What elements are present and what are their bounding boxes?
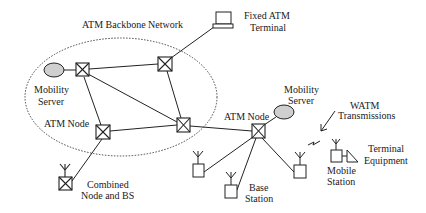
mobility-server-icon (274, 105, 294, 119)
mobility-server-icon (44, 63, 64, 77)
fixed-terminal-label: Fixed ATM (244, 10, 290, 21)
atm-switch-icon (252, 124, 265, 138)
combined-node-bs-icon (59, 164, 72, 190)
atm-switch-icon (76, 63, 89, 76)
combined-node-label: Combined (87, 179, 129, 190)
terminal-equipment-label: Equipment (364, 155, 408, 166)
atm-switch-icon (177, 118, 190, 132)
base-station-label: Station (245, 193, 273, 204)
fixed-terminal-label: Terminal (250, 22, 286, 33)
atm-switch-icon (96, 125, 110, 139)
mobile-station-icon (331, 139, 347, 162)
atm-switch-icon (158, 57, 172, 71)
links (64, 27, 294, 190)
mobility-server-label: Server (288, 95, 315, 106)
mobility-server-label: Server (38, 96, 65, 107)
terminal-equipment-label: Terminal (368, 143, 404, 154)
terminal-equipment-icon (347, 150, 358, 162)
mobility-server-label: Mobility (34, 84, 69, 95)
mobile-station-label: Station (327, 176, 355, 187)
mobility-server-label: Mobility (284, 84, 319, 95)
base-station-icon (193, 151, 204, 177)
atm-network-diagram: ATM Backbone Network Fixed ATM Terminal … (0, 0, 426, 213)
wireless-link-icon (308, 141, 320, 145)
combined-node-label: Node and BS (81, 190, 134, 201)
atm-node-label: ATM Node (44, 118, 90, 129)
fixed-terminal-icon (213, 12, 233, 28)
backbone-label: ATM Backbone Network (82, 19, 183, 30)
base-station-icon (225, 172, 237, 198)
base-station-label: Base (249, 182, 269, 193)
base-station-icon (294, 152, 306, 178)
watm-arrow (321, 111, 335, 131)
watm-label: Transmissions (338, 110, 396, 121)
atm-node-label: ATM Node (224, 111, 270, 122)
mobile-station-label: Mobile (327, 165, 356, 176)
